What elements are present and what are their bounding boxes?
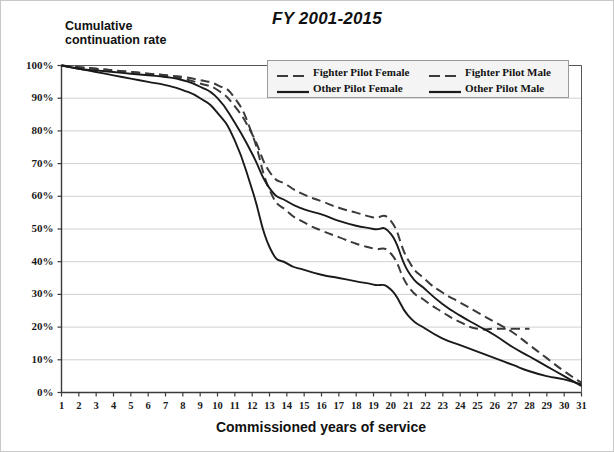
x-axis-tick-label: 6 bbox=[139, 400, 157, 411]
y-axis-tick-label: 40% bbox=[20, 255, 54, 267]
legend-item[interactable]: Fighter Pilot Female bbox=[276, 64, 409, 80]
y-axis-tick-label: 80% bbox=[20, 124, 54, 136]
x-axis-tick-label: 14 bbox=[278, 400, 296, 411]
x-axis-tick-label: 1 bbox=[53, 400, 71, 411]
series-line-fighter-pilot-female bbox=[62, 66, 530, 330]
solid-line-swatch-icon bbox=[428, 83, 462, 93]
dashed-line-swatch-icon bbox=[428, 67, 462, 77]
x-axis-tick-label: 11 bbox=[226, 400, 244, 411]
y-axis-tick-label: 20% bbox=[20, 320, 54, 332]
x-axis-tick-label: 26 bbox=[486, 400, 504, 411]
legend-item[interactable]: Fighter Pilot Male bbox=[428, 64, 551, 80]
x-axis-tick-label: 24 bbox=[451, 400, 469, 411]
x-axis-tick-label: 27 bbox=[503, 400, 521, 411]
legend-label: Other Pilot Female bbox=[313, 82, 403, 94]
x-axis-title: Commissioned years of service bbox=[61, 419, 581, 435]
series-line-fighter-pilot-male bbox=[62, 66, 582, 383]
dashed-line-swatch-icon bbox=[276, 67, 310, 77]
y-axis-tick-label: 60% bbox=[20, 189, 54, 201]
x-axis-tick-label: 29 bbox=[538, 400, 556, 411]
x-axis-tick-label: 7 bbox=[157, 400, 175, 411]
x-axis-tick-label: 17 bbox=[330, 400, 348, 411]
y-axis-tick-label: 0% bbox=[20, 386, 54, 398]
x-axis-tick-label: 18 bbox=[347, 400, 365, 411]
x-axis-tick-label: 10 bbox=[209, 400, 227, 411]
y-axis-tick-label: 70% bbox=[20, 157, 54, 169]
legend-label: Fighter Pilot Female bbox=[313, 66, 409, 78]
x-axis-tick-label: 12 bbox=[243, 400, 261, 411]
legend-item[interactable]: Other Pilot Male bbox=[428, 80, 544, 96]
y-axis-tick-label: 30% bbox=[20, 287, 54, 299]
x-axis-tick-label: 30 bbox=[555, 400, 573, 411]
x-axis-tick-label: 28 bbox=[521, 400, 539, 411]
x-axis-tick-label: 8 bbox=[174, 400, 192, 411]
x-axis-tick-label: 22 bbox=[417, 400, 435, 411]
x-axis-tick-label: 2 bbox=[70, 400, 88, 411]
legend-item[interactable]: Other Pilot Female bbox=[276, 80, 403, 96]
x-axis-tick-label: 23 bbox=[434, 400, 452, 411]
legend-label: Fighter Pilot Male bbox=[465, 66, 551, 78]
x-axis-tick-label: 16 bbox=[313, 400, 331, 411]
x-axis-tick-label: 5 bbox=[122, 400, 140, 411]
y-axis-tick-label: 100% bbox=[20, 59, 54, 71]
x-axis-tick-label: 21 bbox=[399, 400, 417, 411]
x-axis-tick-label: 20 bbox=[382, 400, 400, 411]
x-axis-tick-label: 19 bbox=[365, 400, 383, 411]
x-axis-tick-label: 15 bbox=[295, 400, 313, 411]
y-axis-tick-label: 10% bbox=[20, 353, 54, 365]
y-axis-tick-label: 90% bbox=[20, 91, 54, 103]
x-axis-tick-label: 25 bbox=[469, 400, 487, 411]
series-line-other-pilot-male bbox=[62, 66, 582, 386]
x-axis-tick-label: 4 bbox=[105, 400, 123, 411]
chart-figure: FY 2001-2015 Cumulative continuation rat… bbox=[0, 0, 614, 452]
y-axis-tick-label: 50% bbox=[20, 222, 54, 234]
legend-label: Other Pilot Male bbox=[465, 82, 544, 94]
x-axis-tick-label: 31 bbox=[573, 400, 591, 411]
solid-line-swatch-icon bbox=[276, 83, 310, 93]
chart-legend: Fighter Pilot FemaleFighter Pilot MaleOt… bbox=[267, 60, 569, 98]
series-line-other-pilot-female bbox=[62, 66, 582, 385]
x-axis-tick-label: 9 bbox=[191, 400, 209, 411]
x-axis-tick-label: 3 bbox=[87, 400, 105, 411]
x-axis-tick-label: 13 bbox=[261, 400, 279, 411]
